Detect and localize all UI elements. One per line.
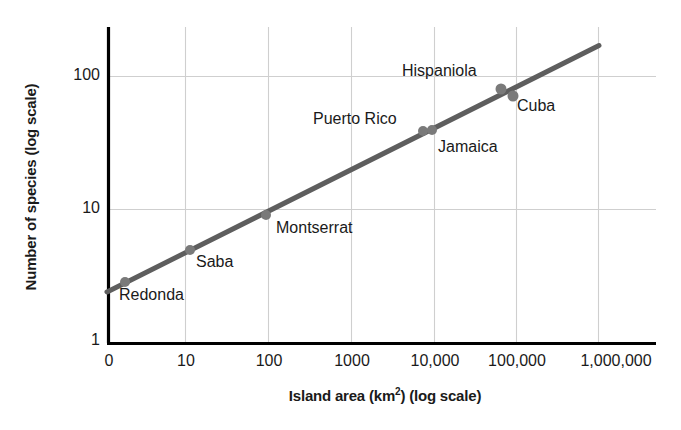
point-label-hispaniola: Hispaniola [402, 62, 477, 80]
trendline [107, 46, 599, 293]
point-label-montserrat: Montserrat [276, 219, 352, 237]
y-tick-label-100: 100 [50, 66, 100, 84]
x-axis-title-tail: ) (log scale) [400, 387, 481, 404]
data-point-puerto-rico[interactable] [418, 126, 428, 136]
point-label-cuba: Cuba [517, 97, 555, 115]
y-tick-label-10: 10 [50, 199, 100, 217]
x-tick-label-0: 0 [88, 352, 130, 370]
x-tick-label-100: 100 [239, 352, 299, 370]
point-label-redonda: Redonda [119, 286, 184, 304]
point-label-puerto-rico: Puerto Rico [313, 110, 397, 128]
y-axis-title: Number of species (log scale) [18, 22, 44, 352]
y-tick-label-1: 1 [50, 331, 100, 349]
point-label-saba: Saba [196, 253, 233, 271]
point-label-jamaica: Jamaica [438, 138, 498, 156]
data-point-saba[interactable] [185, 245, 195, 255]
x-tick-label-1000: 1000 [317, 352, 387, 370]
x-axis-title-base: Island area (km [289, 387, 395, 404]
x-tick-label-1000000: 1,000,000 [554, 352, 678, 370]
x-axis-title: Island area (km2) (log scale) [110, 387, 660, 404]
chart-figure: 100 10 1 0 10 100 1000 10,000 100,000 1,… [0, 0, 681, 430]
data-point-jamaica[interactable] [427, 125, 437, 135]
horizontal-gridlines [108, 77, 656, 210]
data-point-montserrat[interactable] [261, 210, 271, 220]
data-point-hispaniola[interactable] [496, 84, 507, 95]
x-tick-label-10: 10 [160, 352, 212, 370]
